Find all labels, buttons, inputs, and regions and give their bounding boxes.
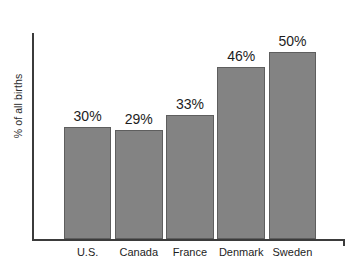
bar — [217, 67, 265, 239]
y-axis-line — [32, 33, 34, 241]
bar-value-label: 46% — [207, 48, 275, 64]
bar-value-label: 29% — [105, 111, 173, 127]
x-axis-tick-label: Sweden — [261, 246, 324, 258]
plot-area: 30%29%33%46%50% — [62, 33, 318, 239]
bar-group: 33% — [166, 33, 214, 239]
bar-group: 29% — [115, 33, 163, 239]
bar-group: 50% — [269, 33, 317, 239]
bar-group: 46% — [217, 33, 265, 239]
bar-group: 30% — [64, 33, 112, 239]
y-axis-label: % of all births — [12, 46, 24, 166]
bar — [115, 130, 163, 239]
x-axis-tick-labels: U.S.CanadaFranceDenmarkSweden — [62, 246, 318, 266]
bar — [166, 115, 214, 239]
bar-value-label: 50% — [259, 33, 327, 49]
bar — [269, 52, 317, 239]
x-axis-line — [32, 239, 345, 241]
bar — [64, 127, 112, 239]
x-axis-end-tick — [343, 239, 345, 246]
bar-value-label: 33% — [156, 96, 224, 112]
bar-chart: % of all births 30%29%33%46%50% U.S.Cana… — [0, 0, 362, 270]
